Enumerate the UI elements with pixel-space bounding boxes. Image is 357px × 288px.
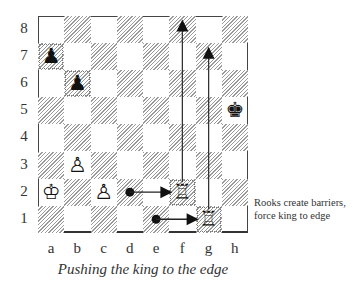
square-g3 (196, 152, 222, 179)
rank-label-1: 1 (18, 210, 30, 227)
square-b8 (64, 16, 90, 43)
square-g4 (196, 124, 222, 151)
square-e2 (143, 179, 169, 206)
square-d4 (117, 124, 143, 151)
file-label-e: e (143, 240, 169, 257)
file-label-g: g (196, 240, 222, 257)
square-d7 (117, 43, 143, 70)
square-h6 (222, 70, 248, 97)
square-f4 (169, 124, 195, 151)
square-h4 (222, 124, 248, 151)
square-a3 (38, 152, 64, 179)
square-a6 (38, 70, 64, 97)
square-f3 (169, 152, 195, 179)
square-c4 (91, 124, 117, 151)
square-c3 (91, 152, 117, 179)
square-e4 (143, 124, 169, 151)
square-a8 (38, 16, 64, 43)
file-label-f: f (169, 240, 195, 257)
square-f5 (169, 97, 195, 124)
chess-board: ♟♟♚♙♔♙♖♖ (38, 16, 248, 233)
square-b2 (64, 179, 90, 206)
square-c7 (91, 43, 117, 70)
square-h8 (222, 16, 248, 43)
square-c8 (91, 16, 117, 43)
square-g7 (196, 43, 222, 70)
black-pawn-icon: ♟ (38, 43, 64, 70)
square-g5 (196, 97, 222, 124)
file-label-h: h (222, 240, 248, 257)
square-c6 (91, 70, 117, 97)
square-a4 (38, 124, 64, 151)
square-b4 (64, 124, 90, 151)
black-king-icon: ♚ (222, 97, 248, 124)
black-pawn-icon: ♟ (64, 70, 90, 97)
rank-label-7: 7 (18, 47, 30, 64)
white-rook-icon: ♖ (196, 206, 222, 233)
square-g8 (196, 16, 222, 43)
square-e5 (143, 97, 169, 124)
square-e6 (143, 70, 169, 97)
square-d8 (117, 16, 143, 43)
annotation-text: Rooks create barriers, force king to edg… (254, 196, 354, 222)
square-f8 (169, 16, 195, 43)
square-a1 (38, 206, 64, 233)
square-e1 (143, 206, 169, 233)
rank-label-8: 8 (18, 20, 30, 37)
file-label-b: b (64, 240, 90, 257)
square-b5 (64, 97, 90, 124)
square-d6 (117, 70, 143, 97)
square-c1 (91, 206, 117, 233)
diagram-caption: Pushing the king to the edge (0, 261, 286, 278)
square-d1 (117, 206, 143, 233)
white-rook-icon: ♖ (169, 179, 195, 206)
square-h7 (222, 43, 248, 70)
square-g6 (196, 70, 222, 97)
square-e3 (143, 152, 169, 179)
square-f7 (169, 43, 195, 70)
square-e7 (143, 43, 169, 70)
square-e8 (143, 16, 169, 43)
square-a5 (38, 97, 64, 124)
white-pawn-icon: ♙ (64, 152, 90, 179)
square-g2 (196, 179, 222, 206)
square-f1 (169, 206, 195, 233)
square-d5 (117, 97, 143, 124)
file-label-a: a (38, 240, 64, 257)
square-h1 (222, 206, 248, 233)
file-label-d: d (117, 240, 143, 257)
file-label-c: c (91, 240, 117, 257)
rank-label-6: 6 (18, 74, 30, 91)
square-b7 (64, 43, 90, 70)
square-b1 (64, 206, 90, 233)
rank-label-5: 5 (18, 101, 30, 118)
rank-label-2: 2 (18, 183, 30, 200)
square-h3 (222, 152, 248, 179)
white-king-icon: ♔ (38, 179, 64, 206)
rank-label-4: 4 (18, 128, 30, 145)
square-d3 (117, 152, 143, 179)
square-h2 (222, 179, 248, 206)
square-c5 (91, 97, 117, 124)
white-pawn-icon: ♙ (91, 179, 117, 206)
square-f6 (169, 70, 195, 97)
rank-label-3: 3 (18, 156, 30, 173)
square-d2 (117, 179, 143, 206)
